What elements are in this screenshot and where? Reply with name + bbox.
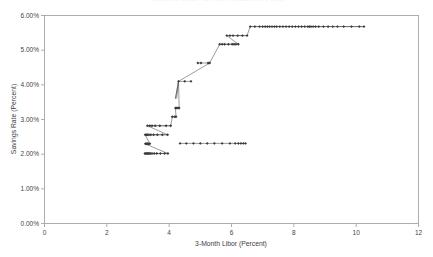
x-tick-label: 4 [167,229,171,236]
data-point-marker [221,43,224,46]
x-axis-tick-labels: 024681012 [43,229,423,236]
y-axis-tickmarks [41,16,45,224]
data-point-marker [303,25,306,28]
data-point-marker [213,142,216,145]
data-point-marker [350,25,353,28]
data-point-marker [241,34,244,37]
x-axis-tickmarks [45,224,419,228]
y-tick-label: 0.00% [21,220,40,227]
data-point-marker [152,133,155,136]
data-point-marker [206,142,209,145]
data-point-marker [236,34,239,37]
data-point-marker [221,142,224,145]
data-point-marker [149,133,152,136]
y-axis-title: Savings Rate (Percent) [10,84,18,154]
data-point-marker [258,25,261,28]
y-tick-label: 2.00% [21,150,40,157]
data-point-marker [261,25,264,28]
data-point-marker [208,62,211,65]
data-point-marker [192,142,195,145]
data-point-marker [185,142,188,145]
data-point-marker [161,133,164,136]
data-point-marker [146,124,149,127]
data-point-marker [342,25,345,28]
data-point-marker [314,25,317,28]
data-point-marker [165,124,168,127]
y-axis-tick-labels: 0.00%1.00%2.00%3.00%4.00%5.00%6.00% [21,12,40,227]
data-point-marker [327,25,330,28]
data-point-marker [268,25,271,28]
data-point-marker [223,43,226,46]
data-point-marker [317,25,320,28]
y-tick-label: 3.00% [21,116,40,123]
data-point-marker [322,25,325,28]
data-point-marker [183,80,186,83]
data-point-marker [156,133,159,136]
data-point-marker [166,133,169,136]
plot-frame [45,16,419,224]
data-point-marker [246,34,249,37]
data-point-marker [278,25,281,28]
data-point-marker [285,25,288,28]
scatter-plot-canvas: 024681012 0.00%1.00%2.00%3.00%4.00%5.00%… [0,0,433,257]
data-point-marker [158,124,161,127]
data-point-marker [228,34,231,37]
y-tick-label: 1.00% [21,185,40,192]
data-point-marker [239,142,242,145]
data-point-marker [169,124,172,127]
x-axis-title: 3-Month Libor (Percent) [195,240,267,248]
data-point-marker [291,25,294,28]
data-point-marker [275,25,278,28]
data-point-marker [179,142,182,145]
data-point-marker [363,25,366,28]
data-point-marker [196,62,199,65]
data-point-marker [234,142,237,145]
data-point-marker [227,43,230,46]
data-point-marker [288,25,291,28]
x-tick-label: 12 [415,229,423,236]
data-point-marker [232,34,235,37]
data-point-marker [244,142,247,145]
data-point-marker [331,25,334,28]
data-point-marker [312,25,315,28]
data-point-marker [253,25,256,28]
chart-figure: Savings Rate versus 3-Month Libor 024681… [0,0,433,257]
data-point-marker [199,142,202,145]
y-tick-label: 4.00% [21,81,40,88]
data-point-marker [166,152,169,155]
data-point-marker [228,142,231,145]
data-point-marker [358,25,361,28]
data-point-marker [171,115,174,118]
data-point-marker [159,152,162,155]
x-tick-label: 0 [43,229,47,236]
data-point-marker [271,25,274,28]
data-point-marker [155,152,158,155]
y-tick-label: 5.00% [21,46,40,53]
data-point-marker [300,25,303,28]
data-point-marker [200,62,203,65]
data-point-marker [177,80,180,83]
y-tick-label: 6.00% [21,12,40,19]
data-point-marker [218,43,221,46]
data-point-marker [336,25,339,28]
x-tick-label: 10 [353,229,361,236]
data-point-marker [249,25,252,28]
data-point-marker [190,80,193,83]
data-point-marker [297,25,300,28]
data-point-marker [294,25,297,28]
data-point-marker [281,25,284,28]
data-point-marker [154,124,157,127]
x-tick-label: 8 [292,229,296,236]
data-point-marker [153,152,156,155]
x-tick-label: 2 [105,229,109,236]
data-point-marker [237,142,240,145]
data-polyline-group [145,27,364,154]
x-tick-label: 6 [230,229,234,236]
data-point-marker [151,124,154,127]
